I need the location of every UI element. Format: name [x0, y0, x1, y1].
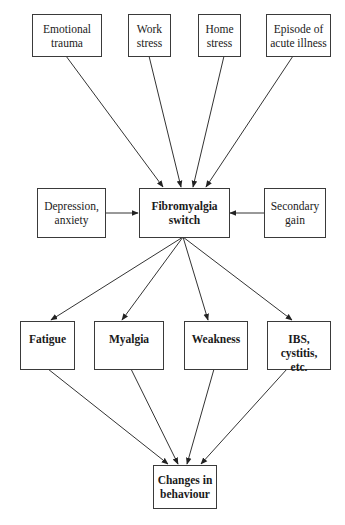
node-weakness: Weakness [184, 321, 248, 370]
node-fatigue: Fatigue [20, 321, 75, 370]
edge-switch-to-ibs [183, 237, 292, 320]
edge-work-to-switch [149, 56, 181, 187]
edge-emotional-to-switch [66, 56, 163, 187]
node-label: IBS, cystitis, etc. [270, 332, 328, 374]
node-label: Fibromyalgia switch [151, 199, 217, 227]
node-acute-illness: Episode of acute illness [266, 14, 331, 57]
node-label: Secondary gain [271, 199, 320, 227]
edge-ibs-to-behaviour [201, 369, 287, 464]
node-label: Home stress [205, 22, 233, 50]
node-changes-behaviour: Changes in behaviour [153, 465, 217, 509]
edges-layer [0, 0, 345, 525]
node-label: Myalgia [109, 332, 149, 346]
edge-switch-to-myalgia [122, 237, 183, 320]
node-work-stress: Work stress [128, 14, 171, 57]
node-label: Weakness [192, 332, 241, 346]
diagram-canvas: Emotional trauma Work stress Home stress… [0, 0, 345, 525]
node-emotional-trauma: Emotional trauma [32, 14, 102, 57]
edge-fatigue-to-behaviour [48, 369, 168, 464]
edge-weakness-to-behaviour [187, 369, 214, 464]
node-secondary-gain: Secondary gain [264, 188, 326, 238]
node-label: Episode of acute illness [270, 22, 327, 50]
node-label: Emotional trauma [43, 22, 91, 50]
node-depression-anxiety: Depression, anxiety [37, 188, 106, 238]
node-ibs-cystitis: IBS, cystitis, etc. [267, 321, 331, 370]
edge-switch-to-fatigue [51, 237, 183, 320]
node-fibromyalgia-switch: Fibromyalgia switch [139, 188, 230, 238]
node-label: Fatigue [29, 332, 66, 346]
node-myalgia: Myalgia [94, 321, 164, 370]
edge-switch-to-weakness [183, 237, 208, 320]
node-home-stress: Home stress [198, 14, 241, 57]
node-label: Changes in behaviour [158, 473, 213, 501]
node-label: Depression, anxiety [44, 199, 99, 227]
edge-myalgia-to-behaviour [131, 369, 178, 464]
node-label: Work stress [137, 22, 163, 50]
